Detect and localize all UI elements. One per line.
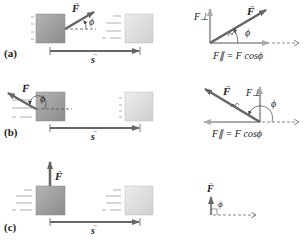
vector-arrow-icon: → — [92, 222, 98, 228]
block-final — [125, 186, 153, 215]
vector-arrow-icon: → — [248, 2, 255, 10]
angle-arc — [84, 21, 86, 29]
motion-lines — [31, 17, 34, 39]
panel-a: F → ϕ s → (a) F⊥ F → ϕ — [4, 0, 299, 65]
motion-lines — [12, 190, 32, 210]
angle-label: ϕ — [271, 98, 276, 109]
motion-lines — [119, 98, 122, 117]
force-arrow — [210, 10, 266, 43]
panel-label: (a) — [4, 47, 17, 60]
perpendicular-component-label: F⊥ — [193, 11, 209, 22]
components-diagram: F⊥ F → ϕ F∥ = F cosϕ — [204, 82, 299, 140]
angle-label: ϕ — [218, 199, 223, 209]
vector-arrow-icon: → — [23, 80, 30, 88]
force-arrow — [8, 93, 36, 109]
components-diagram: F → ϕ — [206, 180, 256, 215]
block-final — [125, 14, 153, 43]
vector-arrow-icon: → — [92, 128, 98, 134]
vector-arrow-icon: → — [208, 180, 214, 186]
block-initial — [36, 14, 65, 43]
angle-arc — [234, 29, 238, 43]
vector-arrow-icon: → — [73, 0, 80, 7]
motion-lines — [102, 16, 121, 38]
angle-label: ϕ — [245, 27, 250, 38]
vector-arrow-icon: → — [224, 82, 231, 90]
panel-label: (c) — [4, 221, 17, 234]
components-diagram: F⊥ F → ϕ F∥ = F cosϕ — [193, 2, 299, 62]
panel-c: F → s → (c) F → ϕ — [4, 162, 256, 236]
motion-lines — [12, 100, 32, 117]
angle-label: ϕ — [89, 16, 94, 27]
panel-label: (b) — [4, 126, 18, 139]
parallel-component-label: F∥ = F cosϕ — [212, 50, 263, 62]
vector-arrow-icon: → — [56, 167, 63, 175]
panel-b: F → ϕ s → (b) F⊥ F → ϕ F∥ = F cosϕ — [4, 80, 299, 142]
perpendicular-component-label: F⊥ — [245, 87, 261, 98]
work-force-angle-diagram: F → ϕ s → (a) F⊥ F → ϕ — [0, 0, 308, 243]
block-initial — [36, 186, 65, 215]
angle-label: ϕ — [40, 93, 45, 104]
motion-lines — [102, 190, 121, 210]
vector-arrow-icon: → — [92, 51, 98, 57]
block-final — [125, 92, 153, 121]
parallel-component-label: F∥ = F cosϕ — [211, 128, 262, 140]
